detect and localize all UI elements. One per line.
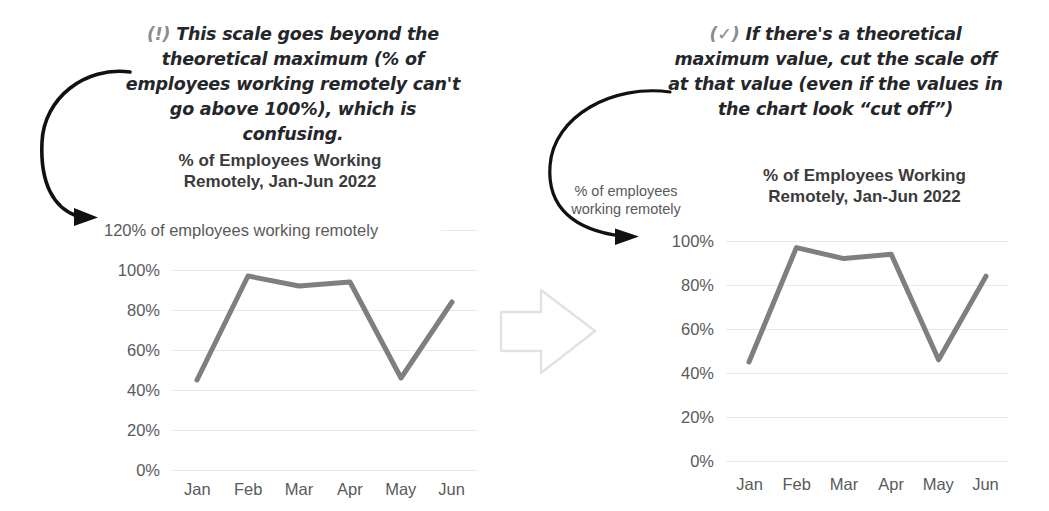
annotation-good-example: (✓) If there's a theoretical maximum val… (663, 22, 1008, 122)
ytick-label-0: 0% (650, 452, 714, 471)
xlabel-jan: Jan (726, 475, 773, 494)
plot-area-good: 100% 80% 60% 40% 20% 0% Jan Feb Mar Apr … (650, 219, 1020, 471)
ytick-label-20: 20% (650, 408, 714, 427)
plot-area-bad: 120% of employees working remotely 100% … (86, 204, 486, 476)
xlabel-feb: Feb (773, 475, 820, 494)
xlabel-jan: Jan (172, 480, 223, 499)
x-axis-labels-bad: Jan Feb Mar Apr May Jun (172, 480, 477, 499)
annotation-bad-text: This scale goes beyond the theoretical m… (126, 24, 460, 144)
ytick-label-100: 100% (650, 232, 714, 251)
chart-title-bad: % of Employees Working Remotely, Jan-Jun… (130, 150, 430, 192)
ytick-label-60: 60% (650, 320, 714, 339)
chart-title-good: % of Employees Working Remotely, Jan-Jun… (722, 165, 1007, 207)
x-axis-labels-good: Jan Feb Mar Apr May Jun (726, 475, 1009, 494)
ytick-label-40: 40% (650, 364, 714, 383)
annotation-bad-example: (!) This scale goes beyond the theoretic… (118, 22, 468, 147)
ytick-label-0: 0% (86, 461, 160, 480)
xlabel-jun: Jun (962, 475, 1009, 494)
check-marker-icon: (✓) (709, 24, 739, 44)
ytick-label-80: 80% (86, 301, 160, 320)
right-arrow-icon (495, 285, 605, 380)
ytick-label-60: 60% (86, 341, 160, 360)
ytick-label-20: 20% (86, 421, 160, 440)
chart-bad-scale: % of Employees Working Remotely, Jan-Jun… (86, 150, 486, 490)
data-line-bad (172, 204, 477, 476)
ytick-label-80: 80% (650, 276, 714, 295)
xlabel-mar: Mar (274, 480, 325, 499)
warning-marker-icon: (!) (147, 24, 170, 44)
chart-good-scale: % of Employees Working Remotely, Jan-Jun… (650, 165, 1020, 490)
ytick-label-100: 100% (86, 261, 160, 280)
xlabel-mar: Mar (820, 475, 867, 494)
xlabel-feb: Feb (223, 480, 274, 499)
xlabel-apr: Apr (324, 480, 375, 499)
ytick-label-40: 40% (86, 381, 160, 400)
data-line-good (726, 219, 1009, 471)
xlabel-may: May (375, 480, 426, 499)
xlabel-may: May (915, 475, 962, 494)
xlabel-jun: Jun (426, 480, 477, 499)
xlabel-apr: Apr (868, 475, 915, 494)
